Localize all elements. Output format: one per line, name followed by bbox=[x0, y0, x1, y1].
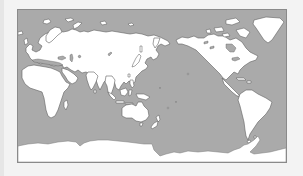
marshall-islands bbox=[159, 87, 160, 88]
greenland bbox=[253, 17, 284, 43]
franz-josef-land bbox=[65, 18, 74, 22]
java bbox=[116, 101, 124, 103]
philippines bbox=[130, 80, 134, 88]
iceland bbox=[18, 31, 23, 35]
fiji bbox=[167, 107, 169, 109]
ellesmere-island bbox=[226, 18, 240, 25]
falkland-islands bbox=[254, 136, 256, 138]
svalbard bbox=[43, 19, 51, 24]
new-zealand-south bbox=[151, 121, 158, 129]
sakhalin bbox=[140, 46, 142, 52]
cuba bbox=[236, 78, 246, 80]
victoria-island bbox=[214, 27, 224, 32]
world-map bbox=[18, 10, 286, 162]
baffin-island bbox=[236, 28, 250, 38]
left-edge-strip bbox=[0, 0, 4, 176]
world-map-frame bbox=[17, 9, 287, 163]
madagascar bbox=[64, 100, 68, 110]
hispaniola bbox=[247, 81, 251, 83]
page bbox=[0, 0, 303, 176]
new-siberian-islands bbox=[128, 23, 134, 26]
banks-island bbox=[206, 29, 211, 33]
south-america bbox=[238, 90, 272, 140]
taiwan bbox=[128, 74, 130, 77]
australia bbox=[122, 102, 149, 122]
samoa bbox=[175, 101, 176, 102]
great-britain bbox=[24, 38, 28, 45]
indian-subcontinent bbox=[86, 72, 98, 90]
central-america bbox=[222, 78, 240, 96]
tasmania bbox=[140, 123, 143, 126]
severnaya-zemlya bbox=[100, 21, 107, 25]
borneo bbox=[120, 88, 128, 96]
hawaii bbox=[187, 73, 189, 75]
new-guinea bbox=[136, 94, 150, 100]
sri-lanka bbox=[94, 90, 96, 93]
sulawesi bbox=[129, 90, 132, 96]
novaya-zemlya bbox=[73, 22, 82, 29]
antarctica bbox=[18, 136, 286, 162]
sumatra bbox=[108, 92, 116, 100]
